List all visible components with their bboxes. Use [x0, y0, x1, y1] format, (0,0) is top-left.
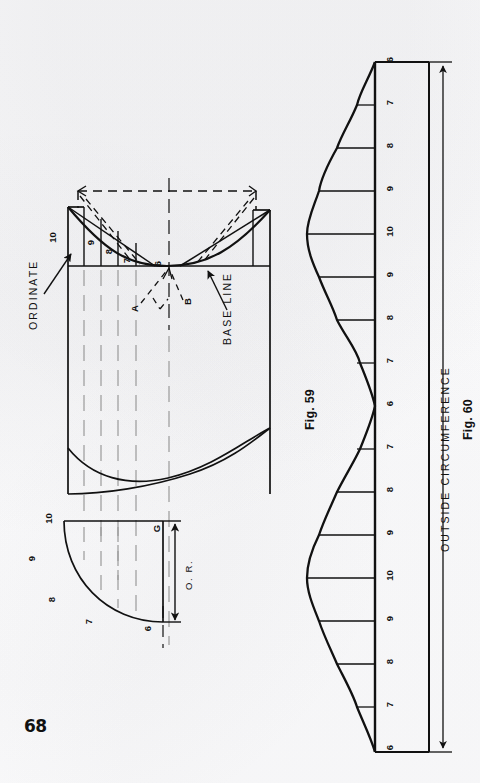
fig59-ordinate-label-9: 9 [85, 233, 96, 253]
fig60-stretchout-label-4: 10 [384, 222, 395, 242]
leader-a-b-lines [141, 269, 183, 309]
fig60-stretchout-label-6: 8 [384, 308, 395, 328]
half-section-element-lines [84, 527, 118, 608]
fig60-stretchout-label-0: 6 [384, 50, 395, 70]
fig60-stretchout-label-7: 7 [384, 351, 395, 371]
fig60-stretchout-label-15: 7 [384, 695, 395, 715]
drawing-page: 10 9 8 7 6 10 9 8 7 6 A B G ORDINATE BAS… [0, 0, 480, 783]
construction-rectangle [78, 191, 256, 210]
figure-59-caption: Fig. 59 [304, 389, 317, 430]
fig59-ordinate-label-10: 10 [47, 228, 58, 248]
pattern-ordinate-lines [307, 62, 375, 752]
label-point-a: A [129, 302, 140, 316]
developed-pattern-curve [307, 62, 375, 752]
outside-circumference-label: OUTSIDE CIRCUMFERENCE [440, 366, 451, 552]
fig60-stretchout-label-13: 9 [384, 609, 395, 629]
fig60-stretchout-label-1: 7 [384, 93, 395, 113]
ordinate-step-profile [68, 207, 270, 266]
fig59-ordinate-label-6: 6 [152, 254, 163, 274]
fig59-ordinate-label-8: 8 [103, 242, 114, 262]
ordinate-label: ORDINATE [28, 260, 39, 330]
fig60-stretchout-label-11: 9 [384, 523, 395, 543]
half-section-quarter-circle [64, 521, 163, 622]
figure-59-group [44, 178, 270, 648]
fig60-stretchout-label-9: 7 [384, 437, 395, 457]
technical-drawing-canvas [0, 0, 480, 783]
base-line-label: BASE LINE [222, 272, 233, 345]
fig60-stretchout-label-2: 8 [384, 136, 395, 156]
page-number: 68 [24, 716, 47, 736]
outside-radius-label: O. R. [184, 560, 194, 590]
fig60-stretchout-label-5: 9 [384, 265, 395, 285]
fig60-stretchout-label-8: 6 [384, 394, 395, 414]
fig60-stretchout-label-14: 8 [384, 652, 395, 672]
fig60-stretchout-label-10: 8 [384, 480, 395, 500]
figure-60-group [307, 62, 452, 752]
true-curve-profile [68, 207, 270, 266]
outside-radius-dimension [163, 521, 181, 622]
ordinate-leader-line [44, 254, 71, 294]
fig59-ordinate-label-7: 7 [121, 251, 132, 271]
fig59-section-label-8: 8 [46, 590, 57, 610]
fig59-section-label-7: 7 [83, 612, 94, 632]
figure-60-caption: Fig. 60 [462, 399, 475, 440]
cylinder-element-lines [84, 270, 169, 645]
fig60-stretchout-label-3: 9 [384, 179, 395, 199]
fig59-section-label-9: 9 [26, 549, 37, 569]
fig59-section-label-6: 6 [142, 619, 153, 639]
fig60-stretchout-label-12: 10 [384, 566, 395, 586]
label-point-b: B [182, 295, 193, 309]
fig59-section-label-10: 10 [43, 509, 54, 529]
label-point-g: G [151, 522, 162, 536]
fig60-stretchout-label-16: 6 [384, 738, 395, 758]
